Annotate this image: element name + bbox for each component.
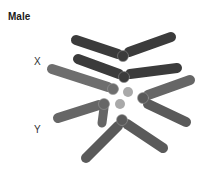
chromosome-y [86, 115, 163, 159]
light-centromere-1 [123, 87, 133, 97]
chromosome-lower-left [58, 99, 110, 124]
chromosome-diagram [0, 0, 206, 194]
chromosome-right-medium [138, 80, 191, 122]
light-centromere-2 [115, 99, 125, 109]
chromosome-top-pair [76, 37, 171, 62]
